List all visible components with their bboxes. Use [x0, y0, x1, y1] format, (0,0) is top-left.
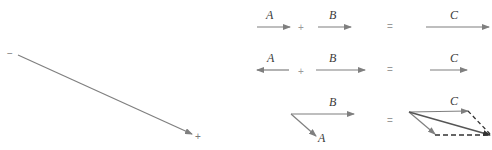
- row2-label-a: A: [267, 52, 274, 64]
- parallelogram-dashed-top: [468, 111, 490, 134]
- row1-label-b: B: [329, 9, 336, 21]
- row1-label-a: A: [266, 9, 273, 21]
- row2-label-c: C: [450, 52, 458, 64]
- row3-label-b: B: [329, 96, 336, 108]
- parallelogram-vector-b: [409, 111, 468, 112]
- parallelogram-resultant: [409, 112, 490, 135]
- row1-label-c: C: [450, 9, 458, 21]
- row2-label-b: B: [329, 52, 336, 64]
- row1-plus: +: [298, 23, 304, 33]
- left-vector: [18, 55, 192, 134]
- row1-equals: =: [387, 22, 393, 32]
- row3-label-a: A: [318, 132, 325, 144]
- row3-equals: =: [387, 116, 393, 126]
- row3-vector-a: [291, 114, 316, 136]
- row3-parallelogram: [409, 111, 490, 135]
- row2-equals: =: [387, 65, 393, 75]
- vector-diagram: [0, 0, 492, 150]
- head-plus-sign: +: [195, 132, 201, 142]
- row2-plus: +: [298, 67, 304, 77]
- row3-label-c: C: [450, 95, 458, 107]
- tail-minus-sign: −: [7, 49, 13, 59]
